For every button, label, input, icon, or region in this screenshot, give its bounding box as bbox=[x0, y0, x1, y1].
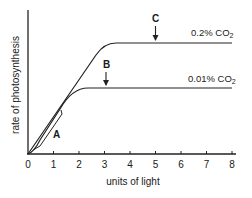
svg-text:0: 0 bbox=[25, 159, 31, 170]
svg-text:2: 2 bbox=[76, 159, 82, 170]
annotation-c: C bbox=[152, 13, 159, 24]
y-axis-label: rate of photosynthesis bbox=[10, 36, 21, 134]
svg-text:8: 8 bbox=[229, 159, 235, 170]
svg-text:1: 1 bbox=[51, 159, 57, 170]
annotation-a: A bbox=[53, 129, 60, 140]
label-0.01-co2: 0.01% CO2 bbox=[188, 73, 236, 85]
svg-text:6: 6 bbox=[178, 159, 184, 170]
photosynthesis-chart: 0 1 2 3 4 5 6 7 8 units of light rate of… bbox=[0, 0, 252, 198]
annotation-b: B bbox=[103, 59, 110, 70]
arrow-c-head bbox=[153, 35, 159, 41]
svg-text:5: 5 bbox=[153, 159, 159, 170]
curve-0.01-co2 bbox=[28, 88, 232, 154]
svg-text:3: 3 bbox=[102, 159, 108, 170]
x-axis-label: units of light bbox=[106, 176, 160, 187]
svg-text:4: 4 bbox=[127, 159, 133, 170]
label-0.2-co2: 0.2% CO2 bbox=[191, 27, 234, 39]
x-tick-labels: 0 1 2 3 4 5 6 7 8 bbox=[25, 159, 235, 170]
arrow-b-head bbox=[103, 80, 109, 86]
svg-text:7: 7 bbox=[204, 159, 210, 170]
